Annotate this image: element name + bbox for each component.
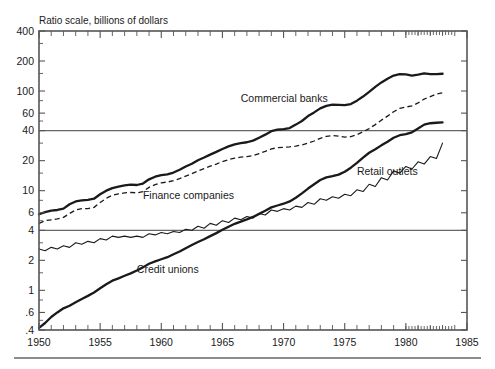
y-tick-label-2: 2: [28, 254, 34, 266]
x-tick-label-1950: 1950: [27, 336, 51, 348]
y-tick-label-p6: .6: [25, 306, 34, 318]
y-tick-label-p4: .4: [25, 324, 34, 336]
chart-axis-title: Ratio scale, billions of dollars: [39, 15, 168, 26]
consumer-credit-line-chart: Ratio scale, billions of dollars 4002001…: [0, 0, 495, 369]
chart-figure: Ratio scale, billions of dollars 4002001…: [0, 0, 495, 369]
annotation-finance-companies: Finance companies: [143, 189, 234, 201]
y-tick-label-400: 400: [16, 25, 34, 37]
x-tick-label-1980: 1980: [394, 336, 418, 348]
chart-background: [0, 0, 495, 369]
y-tick-label-4: 4: [28, 224, 34, 236]
annotation-credit-unions: Credit unions: [137, 263, 199, 275]
y-tick-label-20: 20: [22, 154, 34, 166]
y-tick-label-40: 40: [22, 124, 34, 136]
y-tick-label-1: 1: [28, 284, 34, 296]
annotation-commercial-banks: Commercial banks: [241, 92, 328, 104]
x-tick-label-1975: 1975: [333, 336, 357, 348]
x-tick-label-1960: 1960: [150, 336, 174, 348]
y-tick-label-200: 200: [16, 55, 34, 67]
y-tick-label-100: 100: [16, 85, 34, 97]
x-tick-label-1970: 1970: [272, 336, 296, 348]
y-tick-label-6: 6: [28, 206, 34, 218]
annotation-retail-outlets: Retail outlets: [357, 165, 418, 177]
x-tick-label-1955: 1955: [88, 336, 112, 348]
y-tick-label-10: 10: [22, 184, 34, 196]
x-tick-label-1985: 1985: [455, 336, 479, 348]
x-tick-label-1965: 1965: [211, 336, 235, 348]
y-tick-label-60: 60: [22, 107, 34, 119]
